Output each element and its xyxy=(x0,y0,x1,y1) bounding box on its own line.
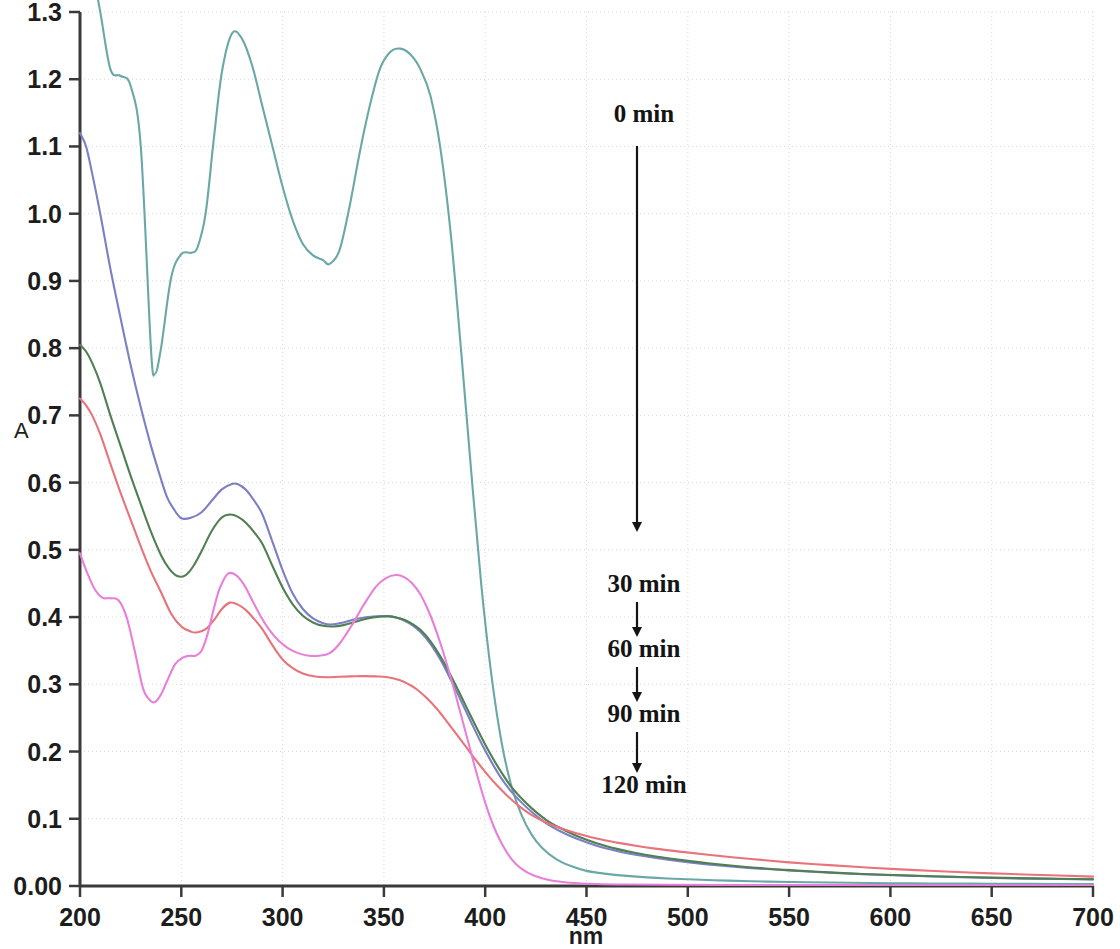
x-tick-label: 400 xyxy=(464,903,506,931)
x-tick-label: 650 xyxy=(971,903,1013,931)
x-tick-label: 600 xyxy=(870,903,912,931)
series-annotations: 0 min30 min60 min90 min120 min xyxy=(601,100,687,798)
y-tick-label: 0.3 xyxy=(27,670,62,698)
y-tick-label: 0.5 xyxy=(27,536,62,564)
y-tick-label: 0.2 xyxy=(27,738,62,766)
x-tick-label: 250 xyxy=(160,903,202,931)
axis-lines xyxy=(80,12,1093,886)
y-tick-label: 0.7 xyxy=(27,401,62,429)
tick-marks xyxy=(69,12,1093,897)
series-annotation-label: 0 min xyxy=(614,100,675,127)
uv-vis-spectra-figure: 0.000.10.20.30.40.50.60.70.80.91.01.11.2… xyxy=(0,0,1120,949)
tick-labels: 0.000.10.20.30.40.50.60.70.80.91.01.11.2… xyxy=(13,0,1114,931)
series-annotation-label: 30 min xyxy=(608,570,681,597)
x-tick-label: 700 xyxy=(1072,903,1114,931)
gridlines xyxy=(80,12,1093,886)
series-annotation-label: 60 min xyxy=(608,635,681,662)
y-tick-label: 0.00 xyxy=(13,872,62,900)
series-annotation-label: 120 min xyxy=(601,771,687,798)
y-tick-label: 0.9 xyxy=(27,267,62,295)
x-tick-label: 350 xyxy=(363,903,405,931)
y-tick-label: 1.1 xyxy=(27,132,62,160)
y-tick-label: 1.0 xyxy=(27,200,62,228)
x-tick-label: 300 xyxy=(262,903,304,931)
arrow-0-to-30-head xyxy=(632,522,642,532)
y-axis-title: A xyxy=(14,418,29,443)
x-tick-label: 200 xyxy=(59,903,101,931)
plot-canvas: 0.000.10.20.30.40.50.60.70.80.91.01.11.2… xyxy=(0,0,1120,949)
y-tick-label: 0.4 xyxy=(27,603,62,631)
y-tick-label: 1.2 xyxy=(27,65,62,93)
x-tick-label: 550 xyxy=(768,903,810,931)
y-tick-label: 0.1 xyxy=(27,805,62,833)
y-tick-label: 0.6 xyxy=(27,469,62,497)
series-annotation-label: 90 min xyxy=(608,700,681,727)
y-tick-label: 0.8 xyxy=(27,334,62,362)
y-tick-label: 1.3 xyxy=(27,0,62,26)
x-axis-title: nm xyxy=(569,923,604,949)
x-tick-label: 500 xyxy=(667,903,709,931)
